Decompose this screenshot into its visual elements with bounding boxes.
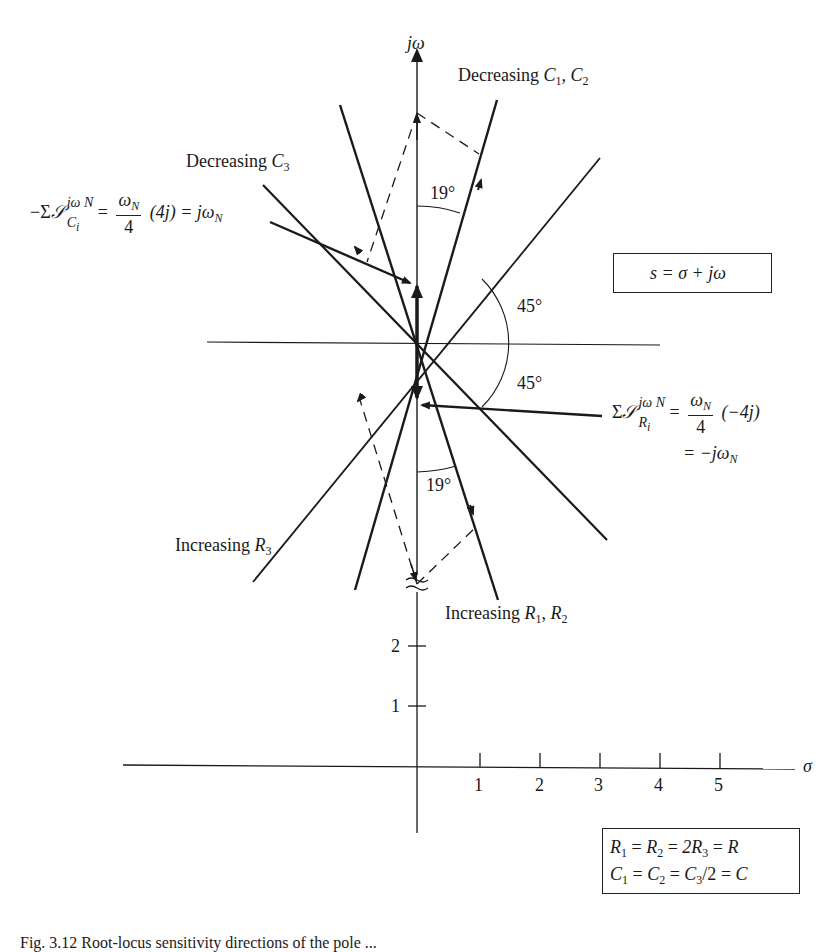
capacitor-relation: C1 = C2 = C3/2 = C xyxy=(610,865,748,886)
sigma-axis-label: σ xyxy=(803,757,812,775)
sigma-axis-upper xyxy=(207,342,660,345)
angle-arc-lower-19 xyxy=(417,466,456,472)
jw-tick-2: 2 xyxy=(391,637,400,655)
jw-axis-label: jω xyxy=(407,34,425,52)
angle-label-lower-45: 45° xyxy=(517,374,542,392)
sigma-ticks xyxy=(480,753,720,768)
label-increasing-r3: Increasing R3 xyxy=(175,536,271,557)
locus-c1c2-line xyxy=(355,100,497,590)
angle-label-lower-19: 19° xyxy=(426,476,451,494)
figure-caption: Fig. 3.12 Root-locus sensitivity directi… xyxy=(20,934,377,952)
resistor-relation: R1 = R2 = 2R3 = R xyxy=(610,838,738,859)
r-sensitivity-result: = −jωN xyxy=(683,443,738,467)
s-plane-definition-box: s = σ + jω xyxy=(613,253,772,293)
sigma-tick-4: 4 xyxy=(654,776,663,794)
sigma-tick-5: 5 xyxy=(714,776,723,794)
angle-label-upper-19: 19° xyxy=(430,184,455,202)
label-decreasing-c1-c2: Decreasing C1, C2 xyxy=(458,66,589,87)
sigma-tick-2: 2 xyxy=(535,776,544,794)
c-sensitivity-pointer xyxy=(270,222,410,283)
jw-tick-1: 1 xyxy=(391,697,400,715)
c-sensitivity-equation: −Σ𝒮jω NCi = ωN4 (4j) = jωN xyxy=(30,190,223,238)
label-decreasing-c3: Decreasing C3 xyxy=(186,152,289,173)
component-relations-box: R1 = R2 = 2R3 = R C1 = C2 = C3/2 = C xyxy=(602,828,800,894)
angle-arc-upper-19 xyxy=(417,206,460,213)
locus-45-line xyxy=(253,158,600,582)
sigma-tick-1: 1 xyxy=(474,776,483,794)
r-sensitivity-pointer xyxy=(422,405,602,416)
angle-label-upper-45: 45° xyxy=(517,297,542,315)
sigma-tick-3: 3 xyxy=(594,776,603,794)
r-sensitivity-equation: Σ𝒮jω NRi = ωN4 (−4j) xyxy=(612,390,760,438)
label-increasing-r1-r2: Increasing R1, R2 xyxy=(445,604,567,625)
sigma-axis-lower xyxy=(123,765,795,769)
